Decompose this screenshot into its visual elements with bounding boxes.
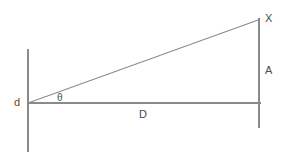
label-distance-D: D <box>139 109 147 120</box>
label-observer-d: d <box>14 97 20 108</box>
label-object-X: X <box>265 13 272 24</box>
label-angle-theta: θ <box>57 92 63 103</box>
geometry-diagram: d θ D A X <box>0 0 286 161</box>
label-size-A: A <box>265 65 272 76</box>
sight-line <box>28 20 260 104</box>
diagram-canvas <box>0 0 286 161</box>
